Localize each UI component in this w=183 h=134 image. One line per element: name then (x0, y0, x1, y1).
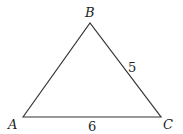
vertex-label-b: B (84, 5, 95, 20)
edge-label-bc: 5 (128, 60, 136, 75)
vertex-label-c: C (163, 117, 173, 132)
vertex-label-a: A (7, 117, 17, 132)
triangle-abc (23, 23, 161, 117)
triangle-diagram: B A C 5 6 (0, 0, 183, 134)
edge-label-ac: 6 (88, 119, 96, 134)
